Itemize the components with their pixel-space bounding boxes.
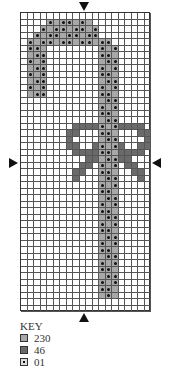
key-item-230: 230 [20,332,51,344]
key-item-01: 01 [20,356,51,368]
cross-stitch-chart-grid [20,12,150,311]
key-item-46: 46 [20,344,51,356]
swatch-icon-46 [20,346,28,354]
swatch-icon-230 [20,334,28,342]
center-marker-left [9,158,18,168]
center-marker-right [152,158,161,168]
key-title: KEY [20,320,51,332]
center-marker-top [79,2,89,11]
stitch-cell [145,306,152,313]
swatch-icon-01 [20,358,28,366]
center-marker-bottom [79,313,89,322]
color-key: KEY 230 46 01 [20,320,51,368]
key-label: 46 [34,344,45,356]
key-label: 230 [34,332,51,344]
key-label: 01 [34,356,45,368]
